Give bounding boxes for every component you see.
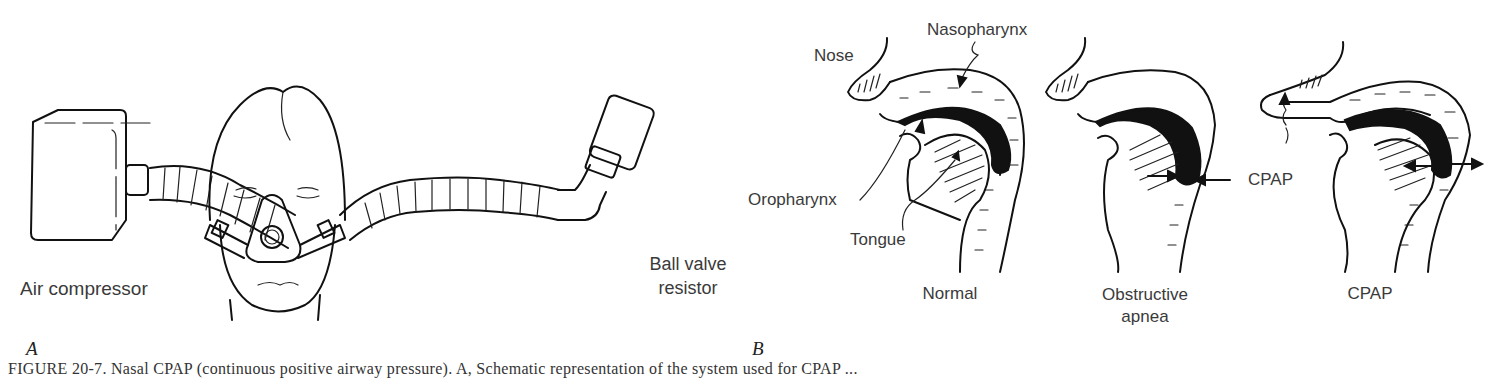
air-compressor-illustration bbox=[31, 110, 150, 240]
subfigure-title-cpap: CPAP bbox=[1320, 284, 1420, 304]
figure-caption: FIGURE 20-7. Nasal CPAP (continuous posi… bbox=[8, 360, 1493, 378]
label-air-compressor: Air compressor bbox=[20, 278, 148, 300]
label-oropharynx: Oropharynx bbox=[748, 190, 837, 210]
label-tongue: Tongue bbox=[850, 230, 906, 250]
subfigure-title-normal: Normal bbox=[900, 284, 1000, 304]
label-nose: Nose bbox=[814, 46, 854, 66]
label-cpap-arrow: CPAP bbox=[1248, 170, 1293, 190]
right-tube-illustration bbox=[340, 178, 560, 241]
panel-letter-a: A bbox=[26, 338, 38, 360]
label-ball-valve-resistor: Ball valve resistor bbox=[633, 252, 743, 300]
panel-letter-b: B bbox=[752, 338, 764, 360]
label-nasopharynx: Nasopharynx bbox=[927, 20, 1027, 40]
label-ball-valve-line2: resistor bbox=[633, 276, 743, 300]
patient-head-illustration bbox=[209, 87, 345, 320]
subfigure-title-cpap-line1: CPAP bbox=[1320, 284, 1420, 304]
label-leaders bbox=[860, 42, 1288, 230]
label-ball-valve-line1: Ball valve bbox=[633, 252, 743, 276]
subfigure-title-obstructive-line2: apnea bbox=[1085, 306, 1205, 328]
subfigure-title-obstructive-line1: Obstructive bbox=[1085, 284, 1205, 306]
subfigure-title-normal-line1: Normal bbox=[900, 284, 1000, 304]
ball-valve-resistor-illustration bbox=[558, 94, 655, 220]
subfigure-title-obstructive-apnea: Obstructive apnea bbox=[1085, 284, 1205, 328]
obstructive-apnea-airway-illustration bbox=[1046, 38, 1230, 272]
cpap-airway-illustration bbox=[1261, 42, 1482, 272]
